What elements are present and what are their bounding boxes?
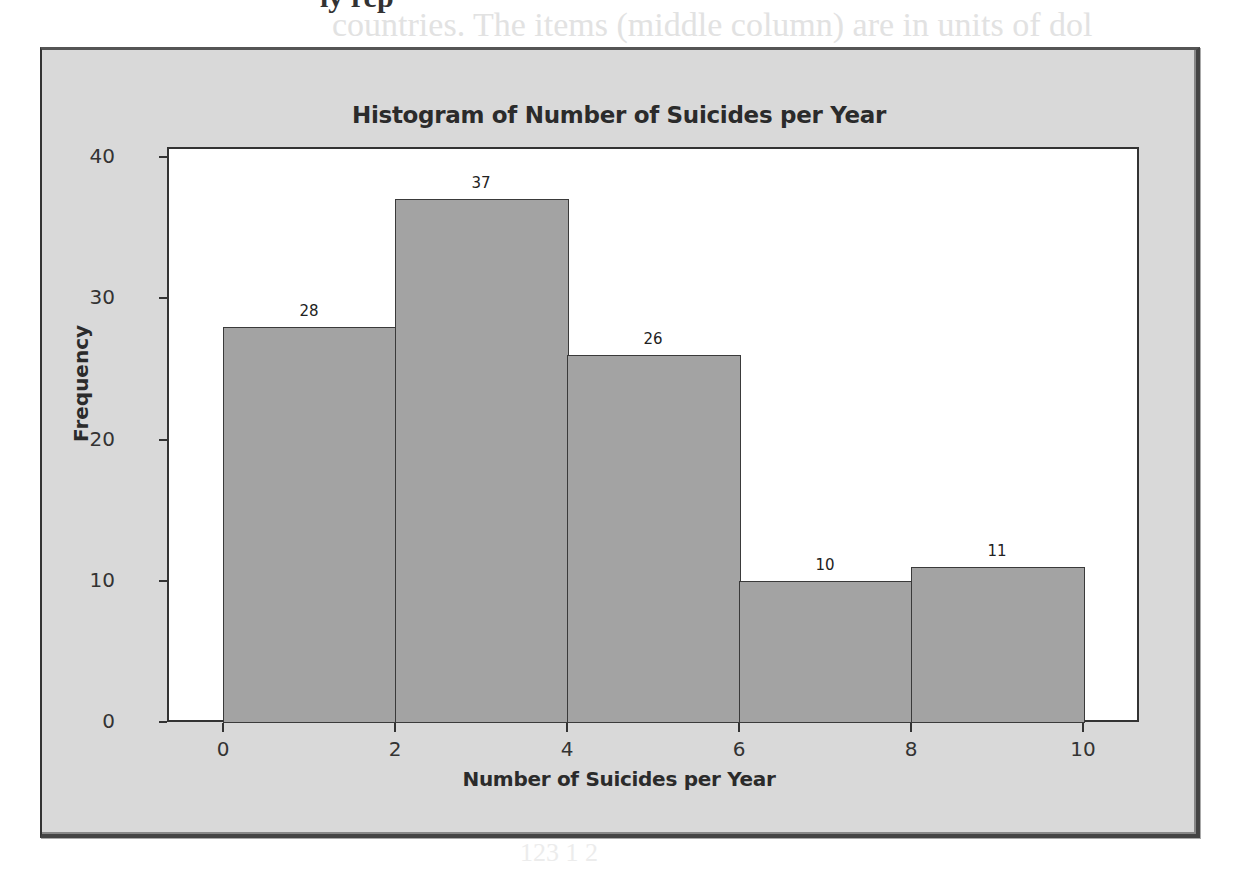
bar-value-label: 28 [279,302,339,320]
y-tick-label: 10 [75,568,115,592]
bar-value-label: 10 [795,556,855,574]
histogram-bar [567,355,741,723]
chart-title: Histogram of Number of Suicides per Year [42,102,1196,128]
x-tick-label: 10 [1058,737,1108,761]
x-tick [394,723,396,732]
y-tick [159,580,167,582]
y-tick [159,721,167,723]
x-tick-label: 2 [370,737,420,761]
x-axis-title: Number of Suicides per Year [42,767,1196,791]
y-tick [159,297,167,299]
y-tick-label: 30 [75,285,115,309]
plot-area: 2837261011 [167,147,1139,722]
bar-value-label: 37 [451,174,511,192]
histogram-bar [911,567,1085,723]
chart-frame: Histogram of Number of Suicides per Year… [40,47,1200,838]
y-axis-title: Frequency [69,325,93,442]
y-tick [159,156,167,158]
x-tick-label: 6 [714,737,764,761]
x-tick [222,723,224,732]
histogram-bar [395,199,569,723]
bar-value-label: 11 [967,542,1027,560]
x-tick [566,723,568,732]
y-tick-label: 0 [75,709,115,733]
background-page-text-bottom: 123 1 2 [520,838,598,868]
x-tick-label: 0 [198,737,248,761]
x-tick-label: 8 [886,737,936,761]
bar-value-label: 26 [623,330,683,348]
histogram-bar [223,327,397,724]
x-tick [910,723,912,732]
x-tick [1082,723,1084,732]
histogram-bar [739,581,913,723]
x-tick [738,723,740,732]
y-tick-label: 40 [75,144,115,168]
x-tick-label: 4 [542,737,592,761]
background-page-text: countries. The items (middle column) are… [332,6,1092,44]
y-tick [159,439,167,441]
